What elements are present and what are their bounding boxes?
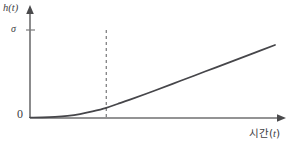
sigma-tick-label: σ [11, 24, 16, 34]
plot-canvas [0, 0, 296, 148]
x-axis-label-suffix: ) [276, 127, 280, 139]
x-axis-arrow-icon [277, 114, 286, 122]
x-axis-label: 시간(t) [249, 128, 280, 140]
y-axis-arrow-icon [26, 5, 34, 14]
figure-container: h(t) σ 0 시간(t) [0, 0, 296, 148]
y-axis-label: h(t) [3, 3, 18, 14]
origin-label: 0 [17, 108, 23, 120]
growth-curve-line [30, 45, 275, 118]
x-axis-label-prefix: 시간( [249, 127, 273, 139]
